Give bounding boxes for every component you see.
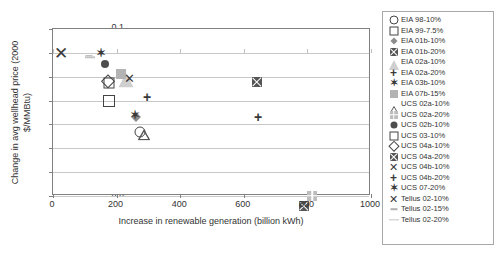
legend-marker-icon: + xyxy=(386,68,401,78)
legend-item[interactable]: EIA 01b-20% xyxy=(386,47,491,58)
legend-label: UCS 03-10% xyxy=(401,131,445,141)
data-point xyxy=(85,56,95,57)
legend-item[interactable]: UCS 02b-10% xyxy=(386,120,491,131)
chart-root: Change in avg wellhead price (2000 $/MMB… xyxy=(0,0,498,255)
legend-label: EIA 02a-10% xyxy=(401,57,445,67)
chart-legend: EIA 98-10%EIA 99-7.5%EIA 01b-10%EIA 01b-… xyxy=(382,11,494,245)
legend-item[interactable]: +UCS 04b-20% xyxy=(386,173,491,184)
legend-marker-icon xyxy=(386,26,401,36)
x-tick-label: 200 xyxy=(96,200,136,209)
y-tick-mark xyxy=(49,101,53,102)
data-point: ✕ xyxy=(124,72,135,85)
data-point: + xyxy=(254,110,262,124)
gridline xyxy=(53,172,369,173)
legend-item[interactable]: UCS 03-10% xyxy=(386,131,491,142)
legend-label: EIA 02a-20% xyxy=(401,68,445,78)
legend-item[interactable]: UCS 02a-10% xyxy=(386,99,491,110)
legend-label: EIA 03b-10% xyxy=(401,78,445,88)
x-tick-label: 600 xyxy=(223,200,263,209)
y-tick-mark xyxy=(49,172,53,173)
legend-item[interactable]: Tellus 02-15% xyxy=(386,204,491,215)
legend-label: UCS 02a-10% xyxy=(401,99,450,109)
y-tick-mark xyxy=(49,53,53,54)
data-point: + xyxy=(143,90,151,104)
legend-marker-icon xyxy=(386,89,401,99)
x-tick-label: 400 xyxy=(159,200,199,209)
legend-item[interactable]: +EIA 02a-20% xyxy=(386,68,491,79)
gridline xyxy=(53,196,369,197)
y-tick-mark xyxy=(49,29,53,30)
legend-item[interactable]: ✕Tellus 02-10% xyxy=(386,194,491,205)
data-point: ✶ xyxy=(130,109,140,121)
x-tick-mark xyxy=(244,194,245,198)
legend-marker-icon xyxy=(386,141,401,151)
legend-label: EIA 07b-15% xyxy=(401,89,445,99)
legend-item[interactable]: ✶UCS 07-20% xyxy=(386,183,491,194)
y-axis-title: Change in avg wellhead price (2000 $/MMB… xyxy=(9,29,21,196)
legend-marker-icon xyxy=(386,36,401,46)
legend-marker-icon xyxy=(386,110,401,120)
legend-marker-icon xyxy=(386,204,401,214)
legend-marker-icon: ✶ xyxy=(386,78,401,88)
legend-marker-icon xyxy=(386,120,401,130)
legend-item[interactable]: EIA 07b-15% xyxy=(386,89,491,100)
y-tick-mark xyxy=(49,77,53,78)
legend-label: EIA 99-7.5% xyxy=(401,26,443,36)
legend-marker-icon: ✕ xyxy=(386,162,401,172)
legend-label: EIA 01b-10% xyxy=(401,36,445,46)
legend-marker-icon: + xyxy=(386,173,401,183)
legend-label: UCS 07-20% xyxy=(401,183,445,193)
legend-marker-icon xyxy=(386,15,401,25)
data-point xyxy=(135,126,146,137)
legend-label: UCS 04b-10% xyxy=(401,162,450,172)
x-axis-title: Increase in renewable generation (billio… xyxy=(52,216,370,226)
data-point xyxy=(103,77,114,88)
legend-item[interactable]: UCS 04a-20% xyxy=(386,152,491,163)
legend-item[interactable]: EIA 99-7.5% xyxy=(386,26,491,37)
legend-item[interactable]: ✕UCS 04b-10% xyxy=(386,162,491,173)
y-tick-mark xyxy=(49,196,53,197)
data-point xyxy=(85,55,92,57)
legend-marker-icon xyxy=(386,99,401,109)
plot-area: +✶✕+✶✕ xyxy=(52,28,370,195)
legend-marker-icon xyxy=(386,47,401,57)
legend-marker-icon xyxy=(386,215,401,225)
legend-label: Tellus 02-10% xyxy=(401,194,449,204)
legend-item[interactable]: UCS 02a-20% xyxy=(386,110,491,121)
legend-label: UCS 02a-20% xyxy=(401,110,450,120)
legend-item[interactable]: Tellus 02-20% xyxy=(386,215,491,226)
data-point xyxy=(131,112,141,122)
data-point xyxy=(138,127,150,138)
legend-label: Tellus 02-20% xyxy=(401,215,449,225)
legend-item[interactable]: EIA 01b-10% xyxy=(386,36,491,47)
legend-item[interactable]: EIA 02a-10% xyxy=(386,57,491,68)
data-point xyxy=(252,77,262,87)
legend-marker-icon: ✶ xyxy=(386,183,401,193)
data-point xyxy=(101,60,109,68)
legend-item[interactable]: EIA 98-10% xyxy=(386,15,491,26)
y-tick-mark xyxy=(49,148,53,149)
x-tick-mark xyxy=(307,194,308,198)
legend-label: UCS 04b-20% xyxy=(401,173,450,183)
gridline xyxy=(53,53,369,54)
legend-label: UCS 02b-10% xyxy=(401,120,450,130)
legend-label: UCS 04a-10% xyxy=(401,141,450,151)
legend-marker-icon xyxy=(386,131,401,141)
gridline xyxy=(53,77,369,78)
legend-label: UCS 04a-20% xyxy=(401,152,450,162)
x-tick-inner xyxy=(244,49,245,53)
legend-marker-icon xyxy=(386,57,401,67)
legend-item[interactable]: UCS 04a-10% xyxy=(386,141,491,152)
x-tick-inner xyxy=(117,49,118,53)
x-tick-mark xyxy=(53,194,54,198)
x-tick-inner xyxy=(307,49,308,53)
gridline xyxy=(53,124,369,125)
legend-label: Tellus 02-15% xyxy=(401,204,449,214)
x-tick-label: 800 xyxy=(286,200,326,209)
x-tick-mark xyxy=(180,194,181,198)
x-tick-inner xyxy=(180,49,181,53)
legend-item[interactable]: ✶EIA 03b-10% xyxy=(386,78,491,89)
x-tick-label: 0 xyxy=(32,200,72,209)
data-point xyxy=(118,72,134,88)
data-points-layer: +✶✕+✶✕ xyxy=(53,29,369,59)
